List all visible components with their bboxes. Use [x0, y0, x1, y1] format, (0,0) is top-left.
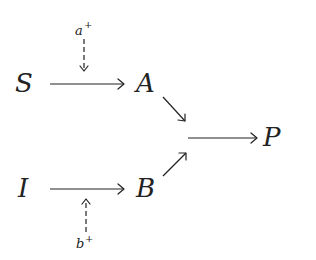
- arrow-a-plus-modulation: [80, 39, 88, 71]
- modulator-a-sign: +: [84, 19, 92, 30]
- node-I: I: [17, 173, 29, 203]
- modulator-a-base: a: [75, 23, 83, 38]
- arrow-S-to-A: [50, 79, 124, 89]
- reaction-diagram: S A I B P a + b +: [0, 0, 316, 260]
- node-A: A: [134, 68, 155, 98]
- arrow-A-to-junction: [163, 97, 185, 121]
- arrow-I-to-B: [50, 184, 124, 194]
- node-B: B: [135, 173, 155, 203]
- arrow-junction-to-P: [188, 133, 257, 143]
- arrow-b-plus-modulation: [82, 199, 90, 232]
- modulator-b-base: b: [76, 236, 84, 251]
- node-P: P: [262, 122, 281, 152]
- modulator-b-plus: b +: [76, 233, 93, 251]
- modulator-a-plus: a +: [75, 19, 92, 38]
- node-S: S: [15, 68, 33, 98]
- arrow-B-to-junction: [163, 153, 186, 176]
- modulator-b-sign: +: [85, 233, 93, 244]
